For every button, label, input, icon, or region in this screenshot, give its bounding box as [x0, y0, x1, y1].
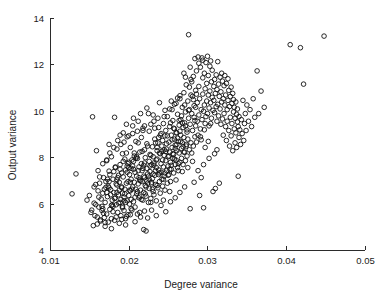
plot-canvas: 0.010.020.030.040.05 468101214 Degree va…: [0, 0, 388, 299]
y-tick-label: 6: [39, 199, 44, 210]
x-tick-label: 0.04: [277, 255, 296, 266]
y-axis-title: Output variance: [7, 109, 18, 180]
x-axis-title: Degree variance: [164, 279, 238, 290]
x-tick-label: 0.03: [198, 255, 217, 266]
y-tick-label: 10: [33, 106, 44, 117]
x-tick-label: 0.01: [41, 255, 60, 266]
y-tick-label: 14: [33, 13, 44, 24]
scatter-plot-figure: 0.010.020.030.040.05 468101214 Degree va…: [0, 0, 388, 299]
y-tick-label: 8: [39, 152, 44, 163]
y-tick-label: 12: [33, 59, 44, 70]
y-tick-label: 4: [39, 245, 44, 256]
x-tick-label: 0.02: [120, 255, 139, 266]
x-tick-label: 0.05: [356, 255, 375, 266]
